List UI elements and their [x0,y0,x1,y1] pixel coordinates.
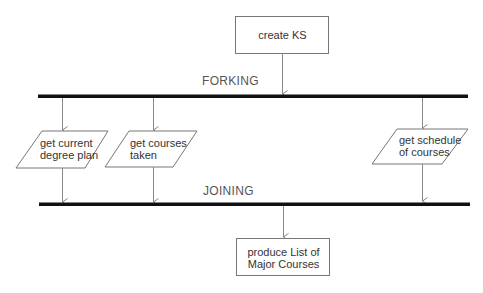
end-node-label: produce List of Major Courses [237,246,330,270]
activity-1-line-1: get current [40,137,98,149]
activity-1-label: get current degree plan [40,137,98,161]
activity-3-line-2: of courses [399,146,461,158]
activity-2-line-1: get courses [130,137,187,149]
end-node-line-2: Major Courses [237,258,330,270]
fork-bar [38,95,468,99]
activity-2-line-2: taken [130,149,187,161]
start-node-label: create KS [236,29,329,41]
activity-3-line-1: get schedule [399,134,461,146]
activity-3-label: get schedule of courses [399,134,461,158]
activity-2-label: get courses taken [130,137,187,161]
end-node-line-1: produce List of [237,246,330,258]
join-bar [39,203,470,207]
join-bar-label: JOINING [203,184,254,198]
fork-bar-label: FORKING [202,74,259,88]
activity-1-line-2: degree plan [40,149,98,161]
